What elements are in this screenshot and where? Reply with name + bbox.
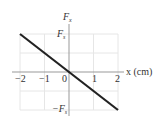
chart: Fx Fs −Fs −2 −1 0 1 2 x (cm) <box>0 0 164 120</box>
x-tick-neg2: −2 <box>15 73 26 84</box>
y-axis-label: Fx <box>62 11 72 23</box>
x-tick-2: 2 <box>115 73 120 84</box>
x-tick-0: 0 <box>62 73 67 84</box>
x-axis-label: x (cm) <box>126 66 152 78</box>
fs-positive-label: Fs <box>56 28 66 40</box>
x-tick-neg1: −1 <box>39 73 50 84</box>
fs-negative-label: −Fs <box>52 103 68 115</box>
x-tick-1: 1 <box>92 73 97 84</box>
